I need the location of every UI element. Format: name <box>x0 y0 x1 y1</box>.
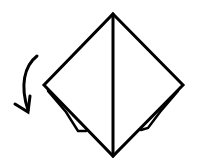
origami-diagram <box>0 0 197 163</box>
left-flap-pocket <box>48 91 86 131</box>
turn-over-arrow-icon <box>15 56 37 112</box>
